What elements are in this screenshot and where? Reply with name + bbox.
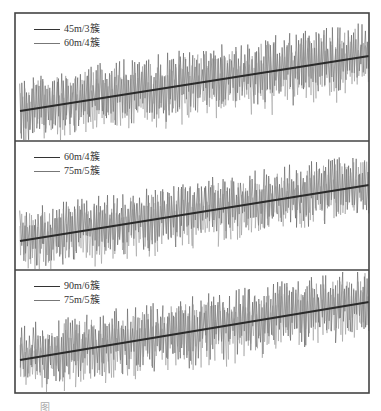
legend-label: 60m/4簇 — [64, 36, 100, 50]
legend-line-light — [34, 43, 60, 44]
legend-item: 75m/5簇 — [34, 293, 100, 307]
legend-line-dark — [34, 286, 60, 287]
legend-label: 45m/3簇 — [64, 22, 100, 36]
legend-label: 75m/5簇 — [64, 293, 100, 307]
legend-label: 60m/4簇 — [64, 150, 100, 164]
legend-line-light — [34, 300, 60, 301]
legend-panel-2: 60m/4簇 75m/5簇 — [34, 150, 100, 178]
legend-item: 45m/3簇 — [34, 22, 100, 36]
legend-item: 75m/5簇 — [34, 164, 100, 178]
legend-line-light — [34, 171, 60, 172]
legend-item: 90m/6簇 — [34, 279, 100, 293]
figure-caption: 图 — [40, 399, 350, 411]
legend-label: 75m/5簇 — [64, 164, 100, 178]
legend-panel-1: 45m/3簇 60m/4簇 — [34, 22, 100, 50]
legend-item: 60m/4簇 — [34, 150, 100, 164]
legend-panel-3: 90m/6簇 75m/5簇 — [34, 279, 100, 307]
legend-line-dark — [34, 157, 60, 158]
legend-item: 60m/4簇 — [34, 36, 100, 50]
legend-label: 90m/6簇 — [64, 279, 100, 293]
legend-line-dark — [34, 29, 60, 30]
